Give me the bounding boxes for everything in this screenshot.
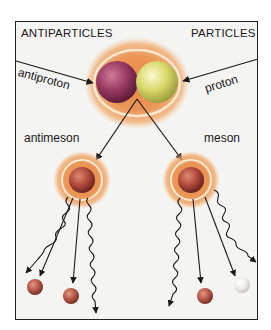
decay-particle-2	[63, 288, 79, 304]
antimeson-decay-lines	[26, 197, 96, 313]
antimeson-label: antimeson	[24, 131, 79, 145]
particles-header: PARTICLES	[191, 27, 256, 39]
proton-sphere	[136, 61, 178, 103]
decay-particle-3	[197, 288, 213, 304]
meson-label: meson	[204, 131, 240, 145]
antimeson-core	[69, 167, 95, 193]
decay-particle-1	[27, 279, 43, 295]
particle-diagram	[0, 0, 271, 330]
decay-particle-4	[234, 277, 250, 293]
meson-core	[178, 167, 204, 193]
antiproton-sphere	[96, 61, 138, 103]
antiparticles-header: ANTIPARTICLES	[21, 27, 113, 39]
